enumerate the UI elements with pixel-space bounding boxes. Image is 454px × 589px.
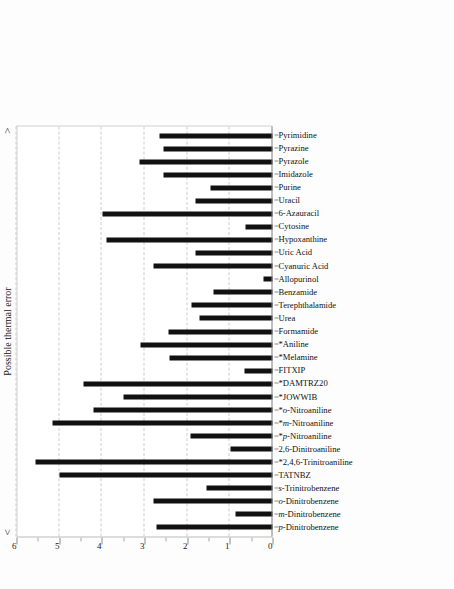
bar[interactable] — [191, 302, 272, 307]
category-slot: Purine — [274, 180, 444, 193]
bar[interactable] — [139, 159, 272, 164]
category-axis-label: o-Dinitrobenzene — [278, 497, 338, 506]
figure-canvas: < Possible thermal error > 0123456 p-Din… — [0, 0, 454, 589]
category-axis-label: 6-Azauracil — [278, 209, 319, 218]
value-axis-tick-minor — [208, 537, 209, 541]
value-axis-tick-label: 3 — [140, 542, 145, 551]
bar[interactable] — [168, 329, 272, 334]
bar-slot — [17, 494, 272, 507]
bar[interactable] — [190, 433, 272, 438]
category-axis-label: s-Trinitrobenzene — [278, 484, 339, 493]
category-axis-tick — [274, 291, 278, 292]
category-axis-tick — [274, 461, 278, 462]
category-axis-tick — [274, 304, 278, 305]
category-axis-tick — [274, 343, 278, 344]
value-axis-tick-label: 5 — [54, 542, 59, 551]
category-slot: Pyrazole — [274, 154, 444, 167]
category-slot: Hypoxanthine — [274, 233, 444, 246]
bar-slot — [17, 507, 272, 520]
category-axis-tick — [274, 435, 278, 436]
bar-slot — [17, 429, 272, 442]
bar[interactable] — [163, 172, 272, 177]
bar[interactable] — [195, 198, 272, 203]
bar-slot — [17, 285, 272, 298]
bar[interactable] — [169, 355, 272, 360]
bar[interactable] — [59, 472, 272, 477]
bar-slot — [17, 207, 272, 220]
category-axis-label: Benzamide — [278, 287, 317, 296]
bar-slot — [17, 403, 272, 416]
bar[interactable] — [230, 446, 272, 451]
bar-slot — [17, 481, 272, 494]
bar-series — [17, 126, 272, 536]
bar-slot — [17, 520, 272, 533]
category-axis-label: m-Dinitrobenzene — [278, 510, 340, 519]
category-axis-tick — [274, 212, 278, 213]
category-axis-label: Hypoxanthine — [278, 235, 327, 244]
bar[interactable] — [156, 524, 272, 529]
value-axis-tick-label: 6 — [12, 542, 17, 551]
bar-slot — [17, 338, 272, 351]
bar-slot — [17, 390, 272, 403]
bar[interactable] — [195, 250, 272, 255]
category-axis-tick — [274, 199, 278, 200]
bar[interactable] — [153, 263, 272, 268]
bar-slot — [17, 246, 272, 259]
category-axis-tick — [274, 526, 278, 527]
value-axis-tick-label: 4 — [97, 542, 102, 551]
bar-slot — [17, 168, 272, 181]
category-axis-tick — [274, 356, 278, 357]
category-axis-label: Terephthalamide — [278, 301, 336, 310]
value-axis-tick-minor — [165, 537, 166, 541]
bar[interactable] — [153, 498, 272, 503]
bar[interactable] — [206, 485, 272, 490]
bar[interactable] — [35, 459, 272, 464]
bar-slot — [17, 455, 272, 468]
bar[interactable] — [83, 381, 272, 386]
category-axis-tick — [274, 317, 278, 318]
category-slot: Pyrazine — [274, 141, 444, 154]
bar[interactable] — [106, 237, 272, 242]
bar[interactable] — [245, 224, 272, 229]
bar[interactable] — [210, 185, 272, 190]
plot-area — [16, 125, 272, 537]
category-axis-tick — [274, 422, 278, 423]
bar[interactable] — [235, 511, 272, 516]
category-axis-tick — [274, 487, 278, 488]
value-axis-title-holder: RMS % error in cell lengths — [288, 297, 304, 589]
category-axis-label: Purine — [278, 183, 300, 192]
category-axis-tick — [274, 265, 278, 266]
bar-slot — [17, 194, 272, 207]
category-axis-tick — [274, 396, 278, 397]
category-slot: Cyanuric Acid — [274, 259, 444, 272]
category-axis-label: 2,6-Dinitroaniline — [278, 445, 340, 454]
value-axis-tick-label: 0 — [268, 542, 273, 551]
thermal-error-annotation: < Possible thermal error > — [0, 125, 16, 537]
bar[interactable] — [123, 394, 272, 399]
value-axis: 0123456 — [16, 537, 272, 589]
rotated-chart-stage: < Possible thermal error > 0123456 p-Din… — [0, 0, 454, 589]
bar[interactable] — [159, 133, 272, 138]
bar-slot — [17, 377, 272, 390]
bar-slot — [17, 468, 272, 481]
category-axis-label: Uracil — [278, 196, 299, 205]
bar[interactable] — [213, 289, 272, 294]
category-slot: 6-Azauracil — [274, 207, 444, 220]
category-axis-label: Pyrazole — [278, 157, 308, 166]
bar[interactable] — [140, 342, 272, 347]
category-axis-tick — [274, 330, 278, 331]
category-slot: Allopurinol — [274, 272, 444, 285]
category-axis-tick — [274, 147, 278, 148]
bar[interactable] — [52, 420, 272, 425]
bar[interactable] — [199, 315, 272, 320]
category-axis-label: Cyanuric Acid — [278, 261, 328, 270]
bar[interactable] — [93, 407, 272, 412]
bar-slot — [17, 129, 272, 142]
category-axis-tick — [274, 173, 278, 174]
category-slot: Benzamide — [274, 285, 444, 298]
bar[interactable] — [102, 211, 272, 216]
category-axis-tick — [274, 278, 278, 279]
category-axis-label: Imidazole — [278, 170, 312, 179]
bar[interactable] — [244, 368, 272, 373]
bar[interactable] — [163, 146, 272, 151]
